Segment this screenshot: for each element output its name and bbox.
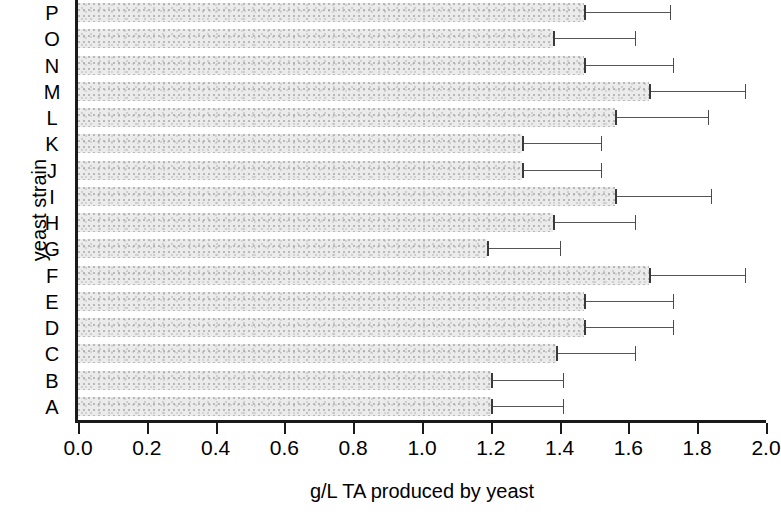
x-axis-tick-label: 1.6 (593, 436, 663, 460)
error-bar-cap-upper-p (670, 5, 671, 20)
error-bar-cap-lower-c (556, 346, 558, 361)
error-bar-cap-upper-b (563, 373, 564, 388)
bar-row (78, 131, 766, 157)
x-axis-tick-labels: 0.00.20.40.60.81.01.21.41.61.82.0 (0, 436, 781, 464)
y-axis-label-c: C (34, 341, 70, 367)
bar-row (78, 79, 766, 105)
bar-e (78, 292, 584, 311)
bar-row (78, 158, 766, 184)
error-bar-m (649, 91, 745, 92)
error-bar-e (584, 301, 673, 302)
x-axis-tick (491, 423, 493, 434)
bar-d (78, 318, 584, 337)
bar-j (78, 161, 522, 180)
x-axis-tick-label: 1.8 (662, 436, 732, 460)
y-axis-label-e: E (34, 289, 70, 315)
x-axis-tick (78, 423, 80, 434)
x-axis-tick-label: 0.4 (181, 436, 251, 460)
y-axis-label-a: A (34, 394, 70, 420)
x-axis-tick (628, 423, 630, 434)
x-axis-tick (697, 423, 699, 434)
error-bar-cap-upper-c (635, 346, 636, 361)
bar-row (78, 394, 766, 420)
bar-h (78, 213, 553, 232)
bar-o (78, 29, 553, 48)
error-bar-cap-lower-p (584, 5, 586, 20)
error-bar-cap-lower-k (522, 136, 524, 151)
bar-row (78, 105, 766, 131)
error-bar-cap-upper-j (601, 163, 602, 178)
error-bar-cap-lower-m (649, 84, 651, 99)
y-axis-label-d: D (34, 315, 70, 341)
y-axis-label-p: P (34, 0, 70, 26)
error-bar-cap-lower-a (491, 399, 493, 414)
plot-area (78, 0, 766, 420)
x-axis-tick (560, 423, 562, 434)
bar-row (78, 368, 766, 394)
error-bar-cap-upper-h (635, 215, 636, 230)
x-axis-tick (766, 423, 768, 434)
error-bar-b (491, 380, 563, 381)
x-axis-tick-label: 0.0 (43, 436, 113, 460)
x-axis-tick (147, 423, 149, 434)
error-bar-cap-upper-l (708, 110, 709, 125)
x-axis-tick-label: 0.2 (112, 436, 182, 460)
error-bar-cap-lower-g (487, 241, 489, 256)
bar-f (78, 266, 649, 285)
x-axis-ticks (78, 423, 766, 435)
error-bar-a (491, 406, 563, 407)
bar-a (78, 397, 491, 416)
error-bar-f (649, 275, 745, 276)
error-bar-cap-upper-o (635, 31, 636, 46)
x-axis-tick (353, 423, 355, 434)
error-bar-cap-upper-e (673, 294, 674, 309)
bar-row (78, 315, 766, 341)
error-bar-p (584, 12, 670, 13)
bar-row (78, 184, 766, 210)
error-bar-cap-upper-k (601, 136, 602, 151)
error-bar-cap-lower-o (553, 31, 555, 46)
error-bar-n (584, 65, 673, 66)
error-bar-cap-lower-i (615, 189, 617, 204)
x-axis-tick-label: 1.2 (456, 436, 526, 460)
x-axis-title: g/L TA produced by yeast (78, 480, 766, 503)
bar-row (78, 263, 766, 289)
y-axis-label-f: F (34, 263, 70, 289)
y-axis-label-i: I (34, 184, 70, 210)
bar-g (78, 239, 487, 258)
error-bar-c (556, 353, 635, 354)
bar-i (78, 187, 615, 206)
bar-k (78, 134, 522, 153)
error-bar-d (584, 327, 673, 328)
error-bar-cap-lower-j (522, 163, 524, 178)
error-bar-j (522, 170, 601, 171)
bar-row (78, 0, 766, 26)
error-bar-cap-lower-l (615, 110, 617, 125)
bar-n (78, 56, 584, 75)
x-axis-tick (422, 423, 424, 434)
bar-row (78, 26, 766, 52)
x-axis-tick-label: 0.6 (249, 436, 319, 460)
y-axis-label-n: N (34, 53, 70, 79)
error-bar-cap-lower-b (491, 373, 493, 388)
bar-row (78, 236, 766, 262)
y-axis-label-o: O (34, 26, 70, 52)
x-axis-tick (284, 423, 286, 434)
error-bar-cap-lower-d (584, 320, 586, 335)
bar-row (78, 289, 766, 315)
y-axis-category-labels: PONMLKJIHGFEDCBA (34, 0, 70, 420)
y-axis-label-m: M (34, 79, 70, 105)
error-bar-cap-upper-m (745, 84, 746, 99)
error-bar-cap-upper-d (673, 320, 674, 335)
y-axis-label-k: K (34, 131, 70, 157)
y-axis-label-b: B (34, 368, 70, 394)
error-bar-cap-lower-e (584, 294, 586, 309)
error-bar-cap-upper-g (560, 241, 561, 256)
y-axis-label-g: G (34, 236, 70, 262)
bar-row (78, 53, 766, 79)
y-axis-label-l: L (34, 105, 70, 131)
bar-b (78, 371, 491, 390)
error-bar-k (522, 143, 601, 144)
error-bar-cap-upper-n (673, 58, 674, 73)
bar-c (78, 344, 556, 363)
